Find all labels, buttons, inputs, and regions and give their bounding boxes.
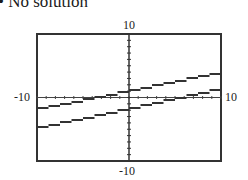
plot-area <box>0 0 248 180</box>
